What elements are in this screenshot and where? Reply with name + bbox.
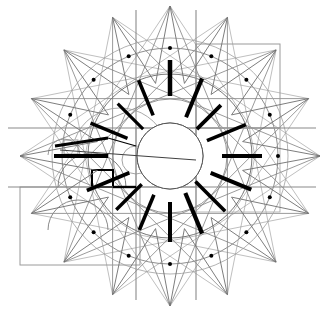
ring-node bbox=[209, 54, 213, 58]
ring-node bbox=[209, 254, 213, 258]
ring-node bbox=[60, 154, 64, 158]
ring-node bbox=[92, 230, 96, 234]
ring-node bbox=[68, 113, 72, 117]
ring-node bbox=[68, 195, 72, 199]
ring-node bbox=[268, 195, 272, 199]
ring-node bbox=[268, 113, 272, 117]
ring-node bbox=[127, 254, 131, 258]
ring-node bbox=[244, 230, 248, 234]
ring-node bbox=[127, 54, 131, 58]
ring-node bbox=[276, 154, 280, 158]
ring-node bbox=[168, 262, 172, 266]
drawing-canvas: Abstract radial geometric line drawing: … bbox=[0, 0, 324, 314]
ring-node bbox=[168, 46, 172, 50]
ring-node bbox=[92, 78, 96, 82]
geometric-artwork bbox=[0, 0, 324, 314]
ring-node bbox=[244, 78, 248, 82]
